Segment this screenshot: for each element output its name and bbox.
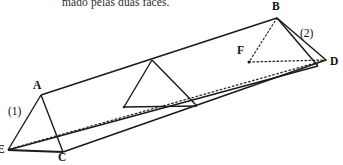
face-marker-1: (1) — [8, 105, 21, 117]
front-face-triangle — [8, 95, 63, 152]
edge-E-lower-back — [8, 66, 318, 150]
diagram-page: mado pelas duas faces. — [0, 0, 343, 165]
edge-mid-base — [124, 106, 197, 107]
edge-A-C — [41, 95, 63, 152]
edge-B-F-hidden — [249, 18, 277, 62]
prism-figure — [0, 0, 343, 165]
vertex-label-C: C — [58, 151, 66, 163]
edge-E-C — [8, 150, 63, 152]
vertex-label-D: D — [330, 55, 338, 67]
vertex-label-A: A — [33, 79, 41, 91]
edge-mid-right — [152, 60, 197, 106]
point-F-marker — [248, 61, 251, 64]
rear-face-triangle — [248, 18, 327, 64]
edge-B-bottom-right — [277, 18, 318, 66]
point-mid-left-marker — [123, 106, 126, 109]
face-marker-2: (2) — [300, 27, 313, 39]
vertex-label-F: F — [237, 44, 244, 56]
edge-B-D — [277, 18, 326, 60]
vertex-label-B: B — [272, 0, 280, 12]
vertex-label-E: E — [0, 143, 5, 155]
